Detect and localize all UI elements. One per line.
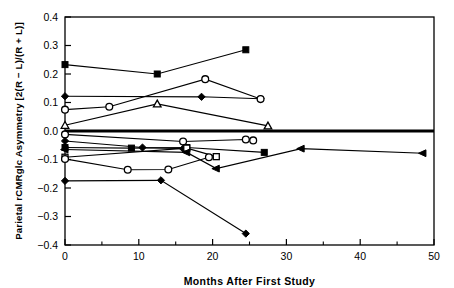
data-series	[62, 47, 249, 77]
series-line	[65, 134, 253, 141]
marker-filled-triangle-left	[297, 145, 304, 152]
marker-open-circle	[62, 106, 69, 113]
marker-open-circle	[165, 166, 172, 173]
y-tick-label: 0.1	[43, 96, 58, 108]
x-tick-label: 50	[428, 250, 440, 262]
scatter-line-plot: −0.4−0.3−0.2−0.10.00.10.20.30.4010203040…	[0, 0, 454, 288]
data-series	[62, 76, 264, 113]
y-tick-label: 0.2	[43, 68, 58, 80]
marker-filled-square	[243, 47, 249, 53]
x-tick-label: 30	[281, 250, 293, 262]
marker-filled-square	[62, 62, 68, 68]
y-tick-label: −0.3	[37, 210, 58, 222]
marker-filled-diamond	[61, 93, 68, 100]
x-tick-label: 10	[133, 250, 145, 262]
y-axis-title: Parietal rCMRglc Asymmetry [2(R − L)/(R …	[13, 22, 24, 240]
y-tick-label: 0.0	[43, 125, 58, 137]
x-tick-label: 40	[354, 250, 366, 262]
marker-open-circle	[206, 154, 213, 161]
marker-filled-diamond	[198, 93, 205, 100]
marker-open-circle	[62, 156, 69, 163]
series-line	[65, 157, 209, 170]
y-tick-label: 0.3	[43, 39, 58, 51]
marker-filled-triangle-left	[419, 150, 426, 157]
chart-figure: −0.4−0.3−0.2−0.10.00.10.20.30.4010203040…	[0, 0, 454, 288]
series-line	[65, 96, 261, 99]
marker-open-circle	[124, 166, 131, 173]
series-layer	[61, 47, 426, 237]
marker-open-circle	[250, 137, 257, 144]
marker-open-triangle	[153, 100, 161, 107]
x-tick-label: 0	[62, 250, 68, 262]
marker-filled-square	[154, 71, 160, 77]
marker-open-circle	[257, 96, 264, 103]
data-series	[61, 177, 249, 237]
marker-filled-diamond	[157, 177, 164, 184]
marker-open-circle	[242, 136, 249, 143]
marker-filled-square	[128, 145, 134, 151]
y-tick-label: −0.4	[37, 239, 58, 251]
y-tick-label: 0.4	[43, 11, 58, 23]
data-series	[61, 100, 272, 129]
marker-filled-square	[261, 149, 267, 155]
marker-filled-diamond	[61, 137, 68, 144]
y-tick-label: −0.1	[37, 153, 58, 165]
x-axis-title: Months After First Study	[184, 275, 316, 287]
marker-open-circle	[106, 103, 113, 110]
x-tick-label: 20	[207, 250, 219, 262]
data-series	[61, 93, 264, 103]
series-line	[65, 180, 246, 233]
series-line	[65, 50, 246, 74]
y-tick-label: −0.2	[37, 182, 58, 194]
data-series	[62, 154, 213, 173]
marker-open-circle	[202, 76, 209, 83]
x-axis-ticks: 01020304050	[62, 239, 440, 262]
marker-open-square	[213, 154, 219, 160]
marker-filled-diamond	[61, 177, 68, 184]
marker-open-circle	[180, 138, 187, 145]
marker-filled-diamond	[242, 230, 249, 237]
